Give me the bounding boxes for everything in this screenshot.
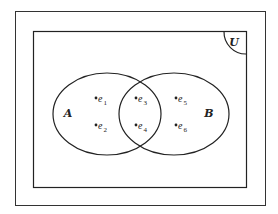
svg-text:1: 1 (104, 99, 108, 107)
element-dot (95, 97, 98, 100)
svg-text:5: 5 (184, 99, 188, 107)
element-dot (135, 124, 138, 127)
element-e6: e 6 (175, 120, 188, 134)
element-dot (175, 97, 178, 100)
element-e4: e 4 (135, 120, 148, 134)
svg-text:e: e (178, 120, 183, 131)
element-e2: e 2 (95, 120, 108, 134)
svg-text:e: e (178, 93, 183, 104)
universe-label: U (229, 36, 240, 49)
svg-text:3: 3 (144, 99, 148, 107)
element-dot (135, 97, 138, 100)
svg-text:4: 4 (144, 126, 148, 134)
element-dot (95, 124, 98, 127)
svg-text:6: 6 (184, 126, 188, 134)
svg-text:e: e (138, 93, 143, 104)
svg-text:e: e (98, 93, 103, 104)
venn-diagram: U A B e 1 e 2 e 3 e 4 e 5 e 6 (0, 0, 278, 214)
element-e5: e 5 (175, 93, 188, 107)
element-dot (175, 124, 178, 127)
set-b-label: B (203, 107, 213, 120)
element-e1: e 1 (95, 93, 108, 107)
svg-text:e: e (138, 120, 143, 131)
element-e3: e 3 (135, 93, 148, 107)
svg-text:e: e (98, 120, 103, 131)
svg-text:2: 2 (104, 126, 108, 134)
set-a-label: A (63, 107, 73, 120)
